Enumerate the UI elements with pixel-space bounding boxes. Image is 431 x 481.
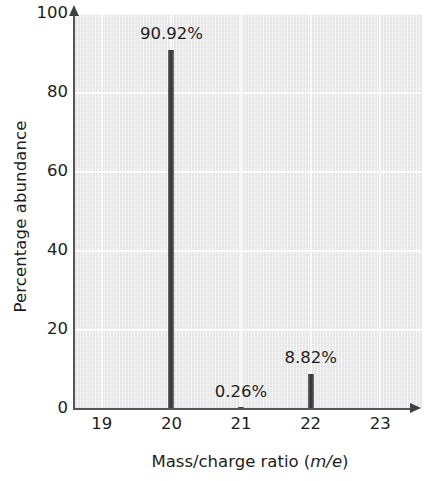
- y-axis-tick-label: 100: [4, 3, 68, 22]
- gridline-horizontal: [74, 171, 422, 173]
- gridline-vertical: [240, 14, 242, 409]
- x-axis-title-tail: ): [342, 452, 348, 471]
- x-axis-title-italic: m/e: [310, 452, 342, 471]
- gridline-horizontal: [74, 329, 422, 331]
- y-axis-arrow-icon: [69, 5, 79, 16]
- x-axis-title: Mass/charge ratio (m/e): [74, 452, 426, 471]
- x-axis-tick-label: 20: [141, 414, 201, 433]
- x-axis-tick-label: 19: [72, 414, 132, 433]
- x-axis-tick-label: 22: [281, 414, 341, 433]
- peak-data-label: 8.82%: [251, 348, 371, 367]
- y-axis-tick-label: 20: [4, 319, 68, 338]
- gridline-horizontal: [74, 14, 422, 15]
- y-axis-tick-label: 40: [4, 240, 68, 259]
- gridline-horizontal: [74, 250, 422, 252]
- gridline-horizontal: [74, 92, 422, 94]
- x-axis-tick-label: 21: [211, 414, 271, 433]
- x-axis-arrow-icon: [410, 403, 421, 413]
- peak-bar: [168, 50, 174, 409]
- x-axis-title-lead: Mass/charge ratio (: [151, 452, 310, 471]
- y-axis-tick-label: 80: [4, 82, 68, 101]
- y-axis-tick-label: 0: [4, 398, 68, 417]
- gridline-vertical: [101, 14, 103, 409]
- x-axis-tick-label: 23: [350, 414, 410, 433]
- gridline-vertical: [379, 14, 381, 409]
- mass-spectrum-figure: Percentage abundance 020406080100 192021…: [0, 0, 431, 481]
- y-axis-line: [73, 14, 75, 410]
- peak-data-label: 90.92%: [111, 24, 231, 43]
- y-axis-ticks: 020406080100: [0, 0, 68, 481]
- x-axis-line: [74, 408, 412, 410]
- y-axis-tick-label: 60: [4, 161, 68, 180]
- peak-bar: [308, 374, 314, 409]
- peak-data-label: 0.26%: [181, 382, 301, 401]
